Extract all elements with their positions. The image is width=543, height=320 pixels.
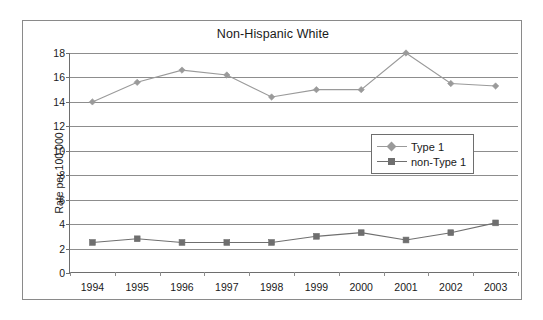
x-axis-tick-label: 1998 — [260, 281, 283, 293]
x-axis-tick-label: 2003 — [484, 281, 507, 293]
square-marker-icon — [269, 240, 275, 246]
x-axis-tick-label: 2000 — [350, 281, 373, 293]
legend-item-type-1: Type 1 — [377, 139, 466, 154]
x-axis-tick-label: 2002 — [439, 281, 462, 293]
y-axis-tick-label: 4 — [59, 218, 65, 230]
series-line-type-1 — [92, 53, 495, 102]
legend-swatch-non-type-1 — [377, 156, 407, 167]
square-marker-icon — [90, 240, 96, 246]
y-axis-tick-label: 18 — [53, 47, 65, 59]
series-line-non-type-1 — [92, 223, 495, 243]
square-marker-icon — [403, 237, 409, 243]
diamond-marker-icon — [268, 94, 274, 100]
chart-title: Non-Hispanic White — [23, 27, 523, 41]
x-axis-tick-label: 1997 — [215, 281, 238, 293]
legend-label-type-1: Type 1 — [411, 141, 444, 153]
square-marker-icon — [493, 220, 499, 226]
diamond-marker-icon — [387, 142, 397, 152]
square-marker-icon — [134, 236, 140, 242]
x-axis-tick-label: 2001 — [394, 281, 417, 293]
square-marker-icon — [179, 240, 185, 246]
y-axis-tick-label: 6 — [59, 194, 65, 206]
chart-figure: Non-Hispanic White Rate per 100,000 0246… — [0, 0, 543, 320]
diamond-marker-icon — [313, 86, 319, 92]
x-axis-tick-label: 1999 — [305, 281, 328, 293]
legend-label-non-type-1: non-Type 1 — [411, 156, 466, 168]
y-axis-tick-label: 12 — [53, 120, 65, 132]
x-axis-tick-mark — [518, 272, 519, 276]
chart-outer-frame: Non-Hispanic White Rate per 100,000 0246… — [22, 20, 522, 300]
y-axis-tick-label: 16 — [53, 71, 65, 83]
diamond-marker-icon — [134, 79, 140, 85]
chart-legend: Type 1 non-Type 1 — [371, 134, 474, 174]
x-axis-tick-label: 1994 — [81, 281, 104, 293]
diamond-marker-icon — [179, 67, 185, 73]
x-axis-tick-label: 1995 — [126, 281, 149, 293]
y-axis-tick-label: 0 — [59, 267, 65, 279]
x-axis-tick-label: 1996 — [170, 281, 193, 293]
diamond-marker-icon — [448, 80, 454, 86]
square-marker-icon — [314, 233, 320, 239]
square-marker-icon — [224, 240, 230, 246]
y-axis-tick-label: 14 — [53, 96, 65, 108]
diamond-marker-icon — [492, 83, 498, 89]
y-axis-tick-label: 10 — [53, 145, 65, 157]
legend-swatch-type-1 — [377, 141, 407, 152]
square-marker-icon — [388, 158, 395, 165]
diamond-marker-icon — [89, 99, 95, 105]
legend-item-non-type-1: non-Type 1 — [377, 154, 466, 169]
square-marker-icon — [358, 230, 364, 236]
y-axis-tick-label: 2 — [59, 243, 65, 255]
y-axis-tick-label: 8 — [59, 169, 65, 181]
square-marker-icon — [448, 230, 454, 236]
diamond-marker-icon — [224, 72, 230, 78]
